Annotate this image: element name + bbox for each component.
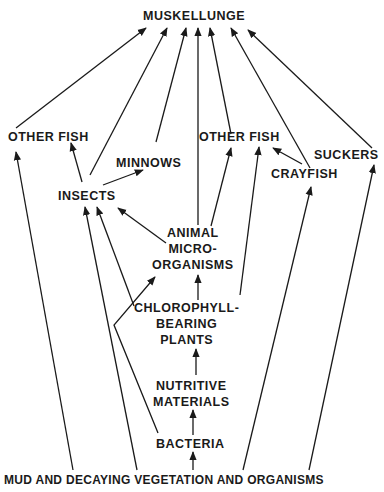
node-chlorophyll-bearing-plants: CHLOROPHYLL- BEARING PLANTS (134, 300, 239, 348)
edge-crayfish-muskellunge (231, 28, 310, 168)
edge-insects-minnows (103, 170, 143, 185)
edge-mud-suckers (309, 165, 374, 470)
edge-otherfishright-muskellunge (210, 28, 231, 134)
edge-chlorophyll-otherfishright (240, 147, 259, 295)
label-line: MATERIALS (153, 394, 230, 410)
edge-crayfish-otherfishright (273, 148, 302, 164)
node-mud-decaying-vegetation: MUD AND DECAYING VEGETATION AND ORGANISM… (4, 472, 324, 488)
label-line: MICRO- (152, 241, 234, 257)
node-minnows: MINNOWS (116, 155, 181, 171)
node-suckers: SUCKERS (314, 147, 379, 163)
edge-insects-otherfishleft (71, 143, 82, 182)
edge-otherfishleft-muskellunge (16, 28, 146, 128)
label-line: CHLOROPHYLL- (134, 300, 239, 316)
edge-animalmicro-otherfishright (211, 148, 231, 226)
edge-insects-muskellunge (90, 28, 167, 175)
node-bacteria: BACTERIA (156, 436, 225, 452)
node-other-fish-right: OTHER FISH (199, 129, 280, 145)
node-animal-micro-organisms: ANIMAL MICRO- ORGANISMS (152, 225, 234, 273)
label-line: ANIMAL (152, 225, 234, 241)
label-line: NUTRITIVE (153, 378, 230, 394)
node-nutritive-materials: NUTRITIVE MATERIALS (153, 378, 230, 410)
food-web-diagram: MUSKELLUNGE OTHER FISH MINNOWS INSECTS O… (0, 0, 384, 492)
node-insects: INSECTS (58, 188, 116, 204)
edge-mud-insects (85, 207, 137, 470)
label-line: ORGANISMS (152, 257, 234, 273)
node-crayfish: CRAYFISH (271, 166, 338, 182)
edge-minnows-muskellunge (156, 28, 186, 142)
edge-mud-crayfish (243, 187, 311, 470)
label-line: BEARING (134, 316, 239, 332)
edge-chlorophyll-insects (97, 207, 134, 306)
node-other-fish-left: OTHER FISH (8, 129, 89, 145)
label-line: PLANTS (134, 332, 239, 348)
node-muskellunge: MUSKELLUNGE (143, 8, 245, 24)
